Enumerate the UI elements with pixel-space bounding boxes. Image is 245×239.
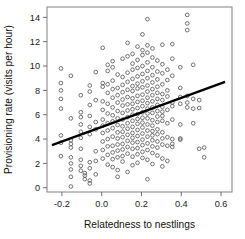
data-point [161,43,165,47]
data-point [59,67,63,71]
data-point [156,109,160,113]
data-point [106,163,110,167]
data-point [151,129,155,133]
data-point [151,47,155,51]
data-point [69,155,73,159]
data-point [131,119,135,123]
data-point [178,102,182,106]
data-point [136,122,140,126]
data-point [94,159,98,163]
data-point [146,123,150,127]
data-point [111,144,115,148]
plot-frame [47,7,232,192]
data-point [111,113,115,117]
data-point [136,146,140,150]
data-point [116,131,120,135]
data-point [106,63,110,67]
data-point [106,69,110,73]
data-point [121,154,125,158]
data-point [126,71,130,75]
data-point [94,70,98,74]
data-point [156,91,160,95]
data-point [131,131,135,135]
data-point [106,129,110,133]
data-point [126,152,130,156]
data-point [111,106,115,110]
data-point [151,145,155,149]
data-point [121,111,125,115]
data-point [101,81,105,85]
x-axis-ticks: -0.20.00.20.40.6 [54,192,227,209]
data-point [106,82,110,86]
data-point [79,158,83,162]
data-point [161,143,165,147]
x-tick-label: 0.6 [215,199,228,209]
data-point [69,175,73,179]
data-point [166,159,170,163]
data-point [136,45,140,49]
data-point [161,131,165,135]
data-point [111,87,115,91]
data-point [146,61,150,65]
data-point [126,54,130,58]
data-point [111,165,115,169]
data-point [156,140,160,144]
scatter-plot-figure: -0.20.00.20.40.6 02468101214 Relatedness… [0,0,245,239]
data-point [94,173,98,177]
data-point [101,131,105,135]
data-point [88,114,92,118]
y-axis-ticks: 02468101214 [30,13,47,193]
data-point [151,81,155,85]
data-point [94,149,98,153]
data-point [116,123,120,127]
data-point [136,66,140,70]
data-point [136,128,140,132]
data-point [166,95,170,99]
data-point [79,123,83,127]
data-point [197,147,201,151]
data-point [166,108,170,112]
data-point [126,145,130,149]
data-point [161,71,165,75]
data-point [156,120,160,124]
x-tick-label: 0.0 [95,199,108,209]
data-point [106,112,110,116]
data-point [131,107,135,111]
data-point [111,126,115,130]
data-point [88,90,92,94]
data-point [136,134,140,138]
data-point [69,117,73,121]
data-point [126,103,130,107]
data-point [156,132,160,136]
data-point [106,102,110,106]
data-point [79,93,83,97]
data-point [111,65,115,69]
data-point [191,121,195,125]
data-point [166,121,170,125]
data-point [141,93,145,97]
y-tick-label: 10 [30,61,40,71]
data-point [141,79,145,83]
data-point [131,62,135,66]
data-point [69,185,73,189]
data-point [131,68,135,72]
y-tick-label: 2 [35,159,40,169]
data-point [69,142,73,146]
data-point [185,101,189,105]
data-point [131,77,135,81]
data-point [146,117,150,121]
data-point [161,98,165,102]
data-point [141,126,145,130]
data-point [191,97,195,101]
data-point [126,88,130,92]
data-point [116,109,120,113]
data-point [161,119,165,123]
y-tick-label: 0 [35,183,40,193]
data-point [136,75,140,79]
data-point [151,162,155,166]
data-point [131,155,135,159]
data-point [146,51,150,55]
data-point [156,146,160,150]
data-point [151,134,155,138]
data-point [83,174,87,178]
